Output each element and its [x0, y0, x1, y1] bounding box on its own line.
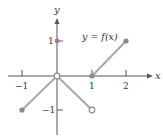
x-tick-label-1: 1: [89, 81, 95, 91]
axes: [8, 18, 153, 135]
filled-point-neg1-neg1: [19, 107, 24, 112]
open-point-1-neg1: [89, 107, 95, 113]
y-tick-label-1: 1: [48, 36, 54, 46]
x-axis-arrow-icon: [147, 74, 153, 79]
y-axis-label: y: [53, 4, 60, 15]
filled-point-2-1: [123, 38, 128, 43]
filled-point-1-0: [89, 73, 94, 78]
y-tick-label-neg1: −1: [42, 105, 55, 115]
x-tick-label-2: 2: [123, 81, 129, 91]
x-tick-label-neg1: −1: [15, 81, 28, 91]
x-axis-label: x: [155, 70, 161, 81]
y-axis-arrow-icon: [55, 18, 60, 24]
function-label: y = f(x): [81, 31, 118, 42]
segment-right: [92, 41, 126, 76]
function-graph: y x y = f(x) −1 1 2 1 −1: [0, 0, 163, 138]
segment-middle: [57, 76, 92, 110]
filled-point-0-1: [55, 39, 60, 44]
open-point-origin: [54, 73, 60, 79]
